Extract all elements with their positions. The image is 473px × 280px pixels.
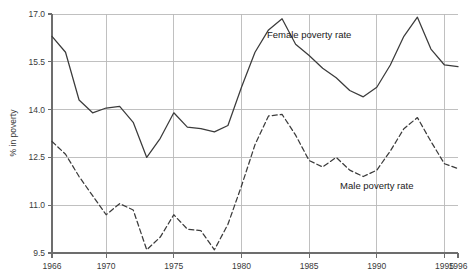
y-tick-label: 9.5	[33, 248, 45, 258]
series-annotation-label: Male poverty rate	[340, 180, 413, 191]
x-tick-label: 1970	[97, 261, 116, 271]
y-axis-title-group: % in poverty	[8, 109, 18, 157]
y-tick-label: 17.0	[28, 9, 45, 19]
series-annotations-group: Female poverty rateMale poverty rate	[267, 29, 414, 191]
x-tick-label: 1996	[449, 261, 468, 271]
y-tick-label: 15.5	[28, 57, 45, 67]
y-axis-title: % in poverty	[8, 109, 18, 157]
poverty-rate-line-chart: 17.015.514.012.511.09.5 1966197019751980…	[0, 0, 473, 280]
y-axis-ticks-group: 17.015.514.012.511.09.5	[28, 9, 52, 258]
chart-canvas: 17.015.514.012.511.09.5 1966197019751980…	[0, 0, 473, 280]
y-tick-label: 12.5	[28, 152, 45, 162]
x-tick-label: 1975	[164, 261, 183, 271]
x-tick-label: 1980	[232, 261, 251, 271]
x-tick-label: 1985	[300, 261, 319, 271]
series-line-female-poverty-rate	[52, 17, 458, 157]
y-tick-label: 11.0	[29, 200, 45, 210]
x-tick-label: 1966	[43, 261, 62, 271]
x-tick-label: 1990	[367, 261, 386, 271]
data-series-group	[52, 17, 458, 250]
x-axis-ticks-group: 19661970197519801985199019951996	[43, 253, 468, 271]
y-tick-label: 14.0	[28, 105, 45, 115]
series-annotation-label: Female poverty rate	[267, 29, 351, 40]
